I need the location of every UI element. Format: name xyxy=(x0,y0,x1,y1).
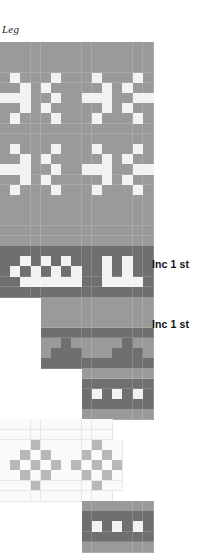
chart-cell xyxy=(112,542,123,553)
chart-cell xyxy=(10,134,21,145)
chart-cell xyxy=(10,236,21,247)
chart-cell xyxy=(41,450,52,461)
chart-cell xyxy=(122,338,133,349)
chart-cell xyxy=(10,450,21,461)
chart-cell xyxy=(10,113,21,124)
chart-cell xyxy=(122,256,133,267)
chart-cell xyxy=(31,450,42,461)
chart-cell xyxy=(112,205,123,216)
chart-cell xyxy=(122,134,133,145)
chart-cell xyxy=(41,62,52,73)
chart-cell xyxy=(0,236,11,247)
chart-cell xyxy=(92,379,103,390)
chart-cell xyxy=(51,297,62,308)
chart-cell xyxy=(51,73,62,84)
chart-cell xyxy=(51,450,62,461)
chart-cell xyxy=(102,440,113,451)
chart-cell xyxy=(122,144,133,155)
chart-cell xyxy=(112,501,123,512)
chart-cell xyxy=(31,287,42,298)
chart-cell xyxy=(112,195,123,206)
chart-cell xyxy=(61,256,72,267)
chart-cell xyxy=(51,266,62,277)
chart-cell xyxy=(112,62,123,73)
chart-cell xyxy=(112,236,123,247)
chart-cell xyxy=(71,124,82,135)
chart-cell xyxy=(92,287,103,298)
chart-cell xyxy=(31,440,42,451)
chart-cell xyxy=(0,134,11,145)
chart-cell xyxy=(92,83,103,94)
chart-cell xyxy=(102,52,113,63)
chart-cell xyxy=(102,266,113,277)
chart-cell xyxy=(133,256,144,267)
chart-cell xyxy=(71,481,82,492)
chart-cell xyxy=(71,113,82,124)
chart-cell xyxy=(82,205,93,216)
chart-cell xyxy=(10,62,21,73)
chart-cell xyxy=(20,73,31,84)
chart-cell xyxy=(31,144,42,155)
chart-cell xyxy=(51,256,62,267)
chart-cell xyxy=(143,246,154,257)
chart-cell xyxy=(51,113,62,124)
chart-cell xyxy=(143,144,154,155)
chart-cell xyxy=(92,328,103,339)
chart-cell xyxy=(82,62,93,73)
chart-cell xyxy=(61,266,72,277)
chart-cell xyxy=(92,246,103,257)
chart-cell xyxy=(112,481,123,492)
chart-cell xyxy=(102,226,113,237)
chart-cell xyxy=(31,83,42,94)
chart-cell xyxy=(71,419,82,430)
chart-cell xyxy=(102,399,113,410)
chart-cell xyxy=(20,113,31,124)
chart-cell xyxy=(20,52,31,63)
chart-cell xyxy=(102,501,113,512)
chart-cell xyxy=(112,338,123,349)
chart-cell xyxy=(82,368,93,379)
chart-cell xyxy=(112,266,123,277)
chart-cell xyxy=(82,409,93,420)
chart-cell xyxy=(133,154,144,165)
chart-cell xyxy=(20,175,31,186)
chart-cell xyxy=(143,511,154,522)
chart-cell xyxy=(133,542,144,553)
chart-cell xyxy=(122,532,133,543)
chart-cell xyxy=(143,52,154,63)
chart-cell xyxy=(82,297,93,308)
chart-cell xyxy=(51,83,62,94)
chart-cell xyxy=(31,470,42,481)
chart-cell xyxy=(82,164,93,175)
chart-cell xyxy=(112,103,123,114)
chart-cell xyxy=(133,246,144,257)
chart-cell xyxy=(92,297,103,308)
chart-cell xyxy=(102,124,113,135)
chart-cell xyxy=(102,164,113,175)
chart-cell xyxy=(102,62,113,73)
chart-cell xyxy=(122,236,133,247)
chart-cell xyxy=(92,399,103,410)
chart-cell xyxy=(112,124,123,135)
chart-cell xyxy=(102,83,113,94)
chart-cell xyxy=(143,348,154,359)
chart-cell xyxy=(92,501,103,512)
chart-cell xyxy=(0,256,11,267)
chart-cell xyxy=(102,481,113,492)
chart-cell xyxy=(71,226,82,237)
chart-cell xyxy=(82,256,93,267)
chart-cell xyxy=(112,511,123,522)
chart-cell xyxy=(92,73,103,84)
chart-cell xyxy=(41,266,52,277)
chart-cell xyxy=(122,379,133,390)
chart-cell xyxy=(102,287,113,298)
chart-cell xyxy=(51,62,62,73)
chart-cell xyxy=(71,144,82,155)
chart-cell xyxy=(41,348,52,359)
chart-cell xyxy=(41,338,52,349)
chart-cell xyxy=(51,185,62,196)
chart-cell xyxy=(112,144,123,155)
chart-cell xyxy=(41,328,52,339)
chart-cell xyxy=(133,532,144,543)
chart-cell xyxy=(92,532,103,543)
